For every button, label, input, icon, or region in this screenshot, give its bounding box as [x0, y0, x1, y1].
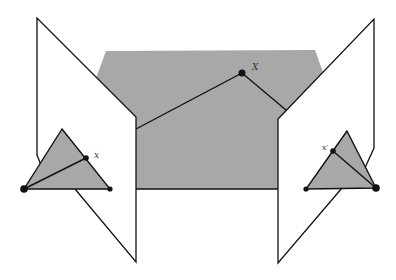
right-camera-center — [372, 184, 380, 192]
left-camera-center — [20, 185, 28, 193]
left-image-point-x — [83, 155, 89, 161]
left-epipole — [107, 186, 112, 191]
right-epipole — [303, 186, 308, 191]
right-image-point-x-prime — [330, 148, 336, 154]
world-point-label: X — [251, 62, 259, 72]
right-image-point-label: x′ — [322, 143, 329, 152]
left-image-point-label: x — [94, 150, 99, 160]
world-point-X — [239, 70, 246, 77]
epipolar-diagram: X x x′ — [0, 0, 396, 280]
